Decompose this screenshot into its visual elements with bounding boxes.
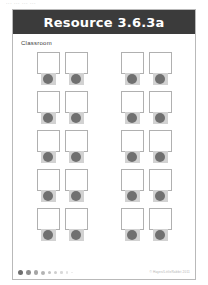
desk-unit[interactable]	[64, 208, 88, 241]
desk-unit[interactable]	[120, 130, 144, 163]
section-label-classroom: Classroom	[21, 40, 52, 46]
student-chair-icon	[155, 152, 165, 162]
footer-dot-icon	[41, 271, 45, 275]
desk-surface[interactable]	[37, 52, 60, 74]
desk-unit[interactable]	[64, 52, 88, 85]
desk-seat	[69, 229, 84, 241]
desk-seat	[153, 229, 168, 241]
desk-seat	[69, 112, 84, 124]
desk-unit[interactable]	[64, 91, 88, 124]
desk-unit[interactable]	[36, 52, 60, 85]
desk-seat	[125, 229, 140, 241]
student-chair-icon	[43, 113, 53, 123]
desk-surface[interactable]	[65, 208, 88, 230]
desk-surface[interactable]	[65, 130, 88, 152]
desk-seat	[125, 112, 140, 124]
desk-seat	[69, 73, 84, 85]
desk-seat	[41, 229, 56, 241]
footer-dot-icon	[26, 270, 31, 275]
seating-grid	[13, 52, 195, 241]
student-chair-icon	[71, 74, 81, 84]
desk-unit[interactable]	[36, 208, 60, 241]
desk-seat	[41, 112, 56, 124]
desk-group	[120, 130, 172, 163]
desk-unit[interactable]	[120, 169, 144, 202]
desk-surface[interactable]	[37, 169, 60, 191]
desk-surface[interactable]	[65, 52, 88, 74]
desk-seat	[41, 151, 56, 163]
student-chair-icon	[155, 191, 165, 201]
desk-group	[120, 52, 172, 85]
student-chair-icon	[127, 113, 137, 123]
desk-seat	[69, 190, 84, 202]
desk-group	[120, 91, 172, 124]
page-header: Resource 3.6.3a	[13, 10, 195, 34]
desk-unit[interactable]	[64, 130, 88, 163]
desk-unit[interactable]	[148, 130, 172, 163]
desk-unit[interactable]	[148, 208, 172, 241]
student-chair-icon	[43, 191, 53, 201]
desk-group	[120, 169, 172, 202]
desk-seat	[153, 73, 168, 85]
student-chair-icon	[43, 74, 53, 84]
desk-surface[interactable]	[149, 91, 172, 113]
desk-surface[interactable]	[121, 52, 144, 74]
desk-seat	[125, 190, 140, 202]
seat-row	[13, 208, 195, 241]
desk-seat	[153, 151, 168, 163]
desk-group	[36, 208, 88, 241]
desk-unit[interactable]	[148, 52, 172, 85]
desk-surface[interactable]	[65, 169, 88, 191]
student-chair-icon	[71, 152, 81, 162]
desk-unit[interactable]	[120, 52, 144, 85]
desk-surface[interactable]	[121, 169, 144, 191]
desk-surface[interactable]	[121, 208, 144, 230]
desk-unit[interactable]	[64, 169, 88, 202]
desk-surface[interactable]	[37, 208, 60, 230]
desk-surface[interactable]	[149, 130, 172, 152]
desk-unit[interactable]	[148, 91, 172, 124]
student-chair-icon	[155, 113, 165, 123]
desk-unit[interactable]	[120, 91, 144, 124]
desk-seat	[41, 73, 56, 85]
student-chair-icon	[127, 191, 137, 201]
desk-surface[interactable]	[65, 91, 88, 113]
desk-surface[interactable]	[149, 169, 172, 191]
seat-row	[13, 169, 195, 202]
desk-seat	[125, 73, 140, 85]
student-chair-icon	[71, 230, 81, 240]
desk-unit[interactable]	[148, 169, 172, 202]
footer-dot-icon	[54, 271, 57, 274]
desk-seat	[153, 112, 168, 124]
footer-dot-icon	[71, 272, 73, 274]
student-chair-icon	[127, 74, 137, 84]
seat-row	[13, 130, 195, 163]
student-chair-icon	[155, 74, 165, 84]
footer-dot-icon	[60, 271, 63, 274]
student-chair-icon	[43, 230, 53, 240]
desk-surface[interactable]	[37, 91, 60, 113]
desk-surface[interactable]	[121, 91, 144, 113]
footer-dot-icon	[34, 270, 38, 274]
desk-unit[interactable]	[36, 130, 60, 163]
desk-unit[interactable]	[36, 169, 60, 202]
desk-seat	[69, 151, 84, 163]
footer-dot-icon	[48, 271, 52, 275]
seat-row	[13, 91, 195, 124]
desk-unit[interactable]	[120, 208, 144, 241]
desk-group	[36, 130, 88, 163]
desk-surface[interactable]	[121, 130, 144, 152]
footer-dot-icon	[18, 270, 23, 275]
desk-surface[interactable]	[37, 130, 60, 152]
footer-dot-icon	[66, 271, 68, 273]
desk-surface[interactable]	[149, 52, 172, 74]
student-chair-icon	[127, 152, 137, 162]
desk-seat	[41, 190, 56, 202]
student-chair-icon	[43, 152, 53, 162]
page-title: Resource 3.6.3a	[44, 15, 165, 30]
desk-surface[interactable]	[149, 208, 172, 230]
scan-bleed-text: ··· ··· ··· ···	[6, 0, 202, 7]
desk-group	[36, 91, 88, 124]
desk-unit[interactable]	[36, 91, 60, 124]
desk-group	[120, 208, 172, 241]
